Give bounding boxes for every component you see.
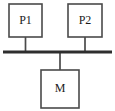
node-processor-p1-label: P1 <box>19 13 32 27</box>
node-memory-m: M <box>41 70 79 108</box>
shared-bus-diagram: P1 P2 M <box>0 0 115 111</box>
node-processor-p2-label: P2 <box>79 13 92 27</box>
diagram-canvas: P1 P2 M <box>0 0 115 111</box>
node-processor-p1: P1 <box>9 4 42 37</box>
node-processor-p2: P2 <box>68 4 102 37</box>
node-memory-m-label: M <box>55 81 66 95</box>
